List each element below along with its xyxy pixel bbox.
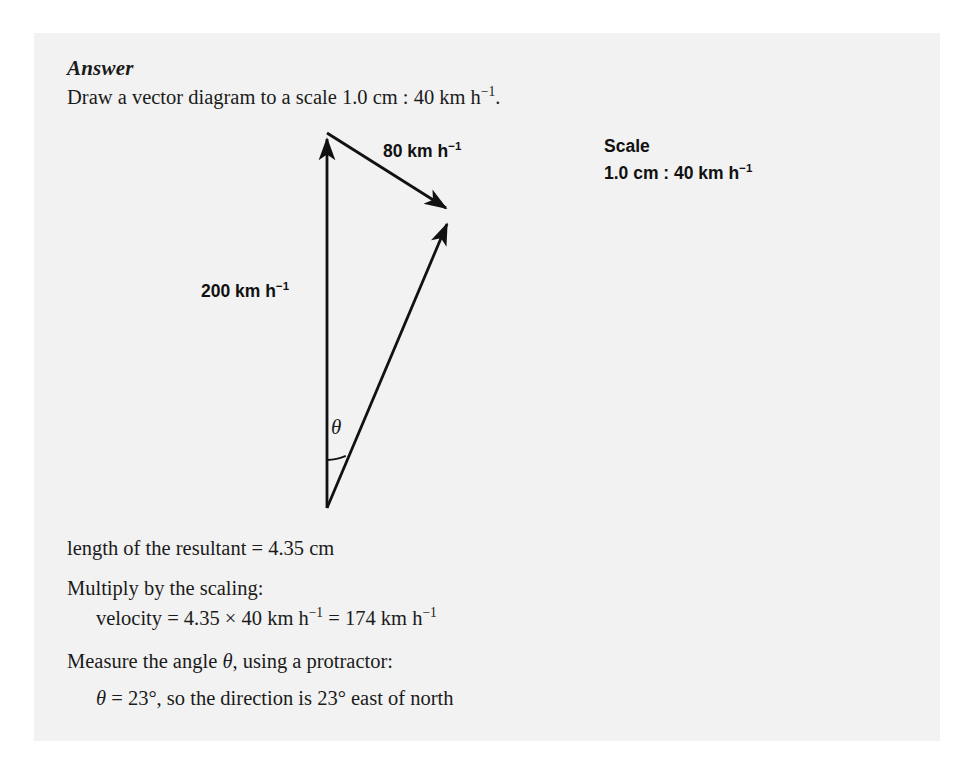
scale-box-exponent: −1 xyxy=(739,162,752,174)
intro-sentence: Draw a vector diagram to a scale 1.0 cm … xyxy=(67,86,500,109)
measure-angle-label: Measure the angle θ, using a protractor: xyxy=(67,650,393,673)
content-panel xyxy=(34,33,940,741)
velocity-calculation-line: velocity = 4.35 × 40 km h−1 = 174 km h−1 xyxy=(96,607,437,630)
measure-theta-symbol: θ xyxy=(222,650,232,672)
velocity-exponent-2: −1 xyxy=(422,605,436,620)
intro-prefix-text: Draw a vector diagram to a scale xyxy=(67,86,342,108)
measure-prefix: Measure the angle xyxy=(67,650,222,672)
theta-result-text: = 23°, so the direction is 23° east of n… xyxy=(106,687,453,709)
page-root: Answer Draw a vector diagram to a scale … xyxy=(0,0,975,775)
velocity-middle: = 174 km h xyxy=(323,607,422,629)
scale-box-value: 1.0 cm : 40 km h−1 xyxy=(604,163,752,184)
velocity-prefix: velocity = 4.35 × 40 km h xyxy=(96,607,309,629)
vector-80-value: 80 km h xyxy=(383,141,448,161)
measure-suffix: , using a protractor: xyxy=(232,650,393,672)
intro-scale-text: 1.0 cm : 40 km h xyxy=(342,86,481,108)
intro-exponent: −1 xyxy=(481,84,495,99)
vector-200-exponent: −1 xyxy=(276,280,289,292)
angle-theta-symbol: θ xyxy=(331,415,341,440)
vector-200-label: 200 km h−1 xyxy=(201,281,289,302)
resultant-length-line: length of the resultant = 4.35 cm xyxy=(67,537,334,560)
theta-result-symbol: θ xyxy=(96,687,106,709)
scale-box-title: Scale xyxy=(604,136,650,157)
scale-box-value-text: 1.0 cm : 40 km h xyxy=(604,163,739,183)
intro-suffix-text: . xyxy=(495,86,500,108)
theta-result-line: θ = 23°, so the direction is 23° east of… xyxy=(96,687,453,710)
vector-200-value: 200 km h xyxy=(201,281,276,301)
vector-80-label: 80 km h−1 xyxy=(383,141,461,162)
answer-heading: Answer xyxy=(67,56,134,81)
velocity-exponent-1: −1 xyxy=(309,605,323,620)
vector-80-exponent: −1 xyxy=(448,140,461,152)
multiply-scaling-label: Multiply by the scaling: xyxy=(67,577,263,600)
